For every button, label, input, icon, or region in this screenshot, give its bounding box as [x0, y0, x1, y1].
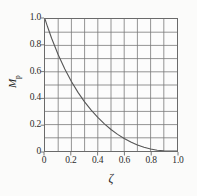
y-tick-label: 1.0 — [1, 13, 41, 23]
x-tick-label: 0 — [29, 156, 59, 166]
x-axis-title: ζ — [44, 172, 178, 184]
overshoot-curve — [45, 19, 177, 151]
x-tick-label: 0.2 — [56, 156, 86, 166]
x-tick-label: 0.6 — [109, 156, 139, 166]
chart-figure: 1.00.80.60.40.20 Mp 00.20.40.60.81.0 ζ — [0, 0, 197, 196]
y-axis-title-subscript: p — [13, 75, 22, 79]
plot-area — [44, 18, 178, 152]
y-tick-label: 0.8 — [1, 40, 41, 50]
y-axis-title: Mp — [6, 60, 21, 104]
y-axis-title-symbol: M — [6, 79, 18, 88]
x-tick-label: 0.8 — [136, 156, 166, 166]
x-axis-tick-labels: 00.20.40.60.81.0 — [44, 156, 178, 170]
x-tick-label: 0.4 — [83, 156, 113, 166]
y-tick-label: 0.2 — [1, 120, 41, 130]
x-tick-label: 1.0 — [163, 156, 193, 166]
